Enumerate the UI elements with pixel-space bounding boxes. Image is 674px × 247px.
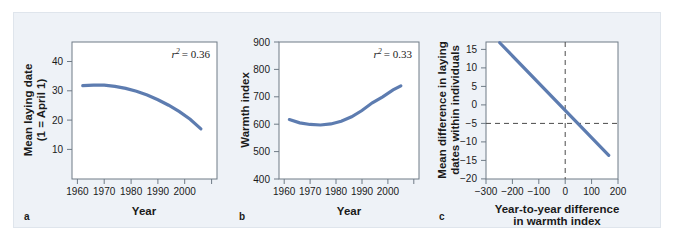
x-tick-label: 2000	[174, 186, 197, 197]
panel-letter-a: a	[24, 211, 30, 222]
x-tick-label: 1960	[273, 186, 296, 197]
figure-container: 40 30 20 10 1960 1970 1980 1990 2000	[13, 12, 661, 228]
y-axis-tick-labels-a: 40 30 20 10	[52, 56, 64, 155]
x-tick-label: 1980	[120, 186, 143, 197]
x-axis-ticks-c	[486, 179, 618, 184]
y-tick-label: 500	[253, 146, 270, 157]
x-tick-label: −100	[528, 186, 551, 197]
x-tick-label: 1990	[351, 186, 374, 197]
y-tick-label: 10	[466, 62, 478, 73]
panel-b: 900 800 700 600 500 400 1960 1970 1980 1…	[229, 13, 429, 227]
x-tick-label: 1990	[147, 186, 170, 197]
panel-letter-c: c	[439, 211, 445, 222]
x-tick-label: 1980	[325, 186, 348, 197]
y-tick-label: 400	[253, 174, 270, 185]
panel-letter-b: b	[239, 211, 245, 222]
plot-area-c	[486, 42, 618, 179]
y-tick-label: 600	[253, 119, 270, 130]
y-axis-tick-labels-c: 15 10 5 0 −5 −10 −15 −20	[460, 44, 477, 185]
x-axis-title-a: Year	[132, 205, 157, 217]
x-tick-label: −300	[475, 186, 498, 197]
x-tick-label: 1960	[66, 186, 89, 197]
x-tick-label: 100	[583, 186, 600, 197]
y-tick-label: 5	[471, 81, 477, 92]
y-axis-ticks-a	[67, 62, 72, 150]
y-tick-label: 900	[253, 37, 270, 48]
x-axis-ticks-a	[77, 179, 211, 184]
y-tick-label: 0	[471, 99, 477, 110]
y-axis-title-a-line1: Mean laying date	[22, 64, 34, 157]
y-axis-title-c-line1: Mean difference in laying	[436, 41, 448, 178]
panel-c: 15 10 5 0 −5 −10 −15 −20 −300 −200 −1	[429, 13, 660, 227]
panel-a-chart: 40 30 20 10 1960 1970 1980 1990 2000	[14, 13, 229, 229]
y-tick-label: −10	[460, 136, 477, 147]
x-axis-title-b: Year	[337, 205, 362, 217]
x-tick-label: 1970	[299, 186, 322, 197]
x-axis-title-c-line2: in warmth index	[513, 215, 601, 227]
y-tick-label: 700	[253, 91, 270, 102]
x-axis-tick-labels-c: −300 −200 −100 0 100 200	[475, 186, 627, 197]
x-tick-label: 2000	[377, 186, 400, 197]
x-tick-label: 1970	[93, 186, 116, 197]
y-axis-tick-labels-b: 900 800 700 600 500 400	[253, 37, 270, 185]
y-tick-label: −5	[466, 118, 478, 129]
y-tick-label: 10	[52, 144, 64, 155]
x-tick-label: 200	[610, 186, 627, 197]
x-axis-ticks-b	[284, 179, 414, 184]
y-axis-title-a-line2: (1 = April 1)	[35, 79, 47, 142]
panel-b-chart: 900 800 700 600 500 400 1960 1970 1980 1…	[229, 13, 429, 229]
y-tick-label: 30	[52, 85, 64, 96]
y-axis-ticks-b	[274, 42, 279, 179]
panel-c-chart: 15 10 5 0 −5 −10 −15 −20 −300 −200 −1	[429, 13, 660, 229]
x-axis-tick-labels-a: 1960 1970 1980 1990 2000	[66, 186, 196, 197]
x-tick-label: 0	[562, 186, 568, 197]
y-tick-label: −20	[460, 173, 477, 184]
y-axis-ticks-c	[481, 49, 486, 179]
y-tick-label: 40	[52, 56, 64, 67]
y-tick-label: 20	[52, 115, 64, 126]
x-axis-title-c-line1: Year-to-year difference	[495, 203, 620, 215]
y-tick-label: 15	[466, 44, 478, 55]
plot-area-b	[279, 42, 419, 179]
y-tick-label: 800	[253, 64, 270, 75]
panel-a: 40 30 20 10 1960 1970 1980 1990 2000	[14, 13, 229, 227]
plot-area-a	[72, 42, 217, 179]
x-axis-tick-labels-b: 1960 1970 1980 1990 2000	[273, 186, 399, 197]
x-tick-label: −200	[501, 186, 524, 197]
y-axis-title-b: Warmth index	[239, 72, 251, 148]
y-tick-label: −15	[460, 155, 477, 166]
y-axis-title-c-line2: dates within individuals	[449, 45, 461, 175]
